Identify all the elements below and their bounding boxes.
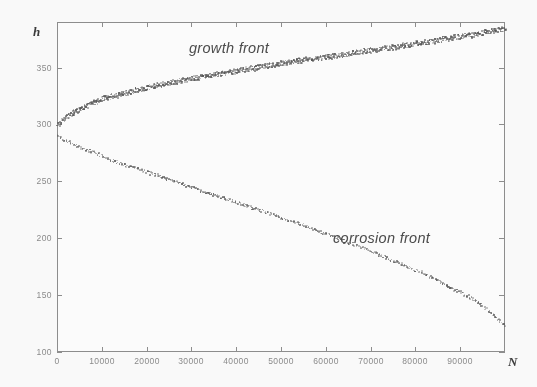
data-point [61,122,62,123]
y-tick-label: 200 [16,233,52,243]
data-point [470,34,471,35]
data-point [259,67,260,68]
data-point [82,149,84,151]
data-point [497,31,499,33]
data-point [160,175,161,176]
data-point [263,210,264,211]
data-point [468,294,470,296]
data-point [301,62,303,64]
data-point [458,35,460,37]
data-point [320,230,322,232]
data-point [125,166,127,168]
data-point [393,49,395,51]
data-point [475,301,476,302]
data-point [473,36,475,38]
data-point [424,39,426,41]
data-point [282,219,283,220]
data-point [68,117,70,119]
x-axis-label: N [508,354,517,370]
y-tick-label: 300 [16,119,52,129]
data-point [448,40,450,42]
data-point [84,148,85,149]
annotation-corrosion-front: corrosion front [333,230,430,246]
data-point [59,125,61,127]
data-point [480,303,481,304]
data-point [251,70,253,72]
plot-area [57,22,505,352]
data-point [469,298,471,300]
data-point [94,104,96,106]
data-point [239,71,241,73]
data-point [286,64,288,66]
data-point [489,310,490,311]
data-point [389,49,391,51]
data-point [386,256,387,257]
data-point [439,42,440,43]
data-point [260,211,262,213]
y-tick-label: 350 [16,63,52,73]
data-point [144,169,146,171]
data-point [99,156,101,158]
data-point [267,211,269,213]
y-tick-label: 150 [16,290,52,300]
data-point [265,213,266,214]
data-point [220,198,221,199]
data-point [482,34,484,36]
data-point [112,98,114,100]
data-point [229,198,231,200]
data-point [462,292,464,294]
data-point [73,114,75,116]
data-point [177,83,179,85]
data-point [370,52,372,54]
data-point [413,45,414,46]
data-point [119,163,120,164]
data-point [445,40,447,42]
data-point [390,260,391,261]
data-point [181,82,183,84]
y-tick-mark [499,352,505,353]
data-point [505,325,506,326]
data-point [486,307,488,309]
x-tick-label: 90000 [430,356,490,366]
data-point [152,174,153,175]
data-point [84,109,86,111]
data-point [505,29,507,31]
data-point [200,78,202,80]
data-point [67,142,68,143]
data-point [490,33,492,35]
data-point [313,59,315,61]
data-point [184,184,186,186]
data-point [103,100,105,102]
data-point [476,300,477,301]
data-point [60,136,62,138]
data-point [381,49,383,51]
data-point [87,107,88,108]
data-point [401,262,403,264]
y-tick-mark [57,352,62,353]
data-point [318,58,320,60]
data-point [271,67,273,69]
data-point [360,248,362,250]
annotation-growth-front: growth front [189,40,269,56]
data-point [400,47,402,49]
data-point [149,89,151,91]
data-point [110,99,112,101]
data-point [428,43,430,45]
data-point [434,42,436,44]
data-point [146,89,148,91]
y-tick-label: 250 [16,176,52,186]
data-point [248,71,250,73]
data-point [422,44,424,46]
data-point [336,57,338,59]
data-point [225,74,227,76]
data-point [70,144,71,145]
data-point [117,97,119,99]
data-point [441,41,443,43]
figure-container: h N 100150200250300350010000200003000040… [0,0,537,387]
data-point [149,174,151,176]
data-point [478,301,479,302]
data-point [491,312,492,313]
data-point [198,79,200,81]
y-axis-label: h [33,24,40,40]
data-point [272,62,274,64]
